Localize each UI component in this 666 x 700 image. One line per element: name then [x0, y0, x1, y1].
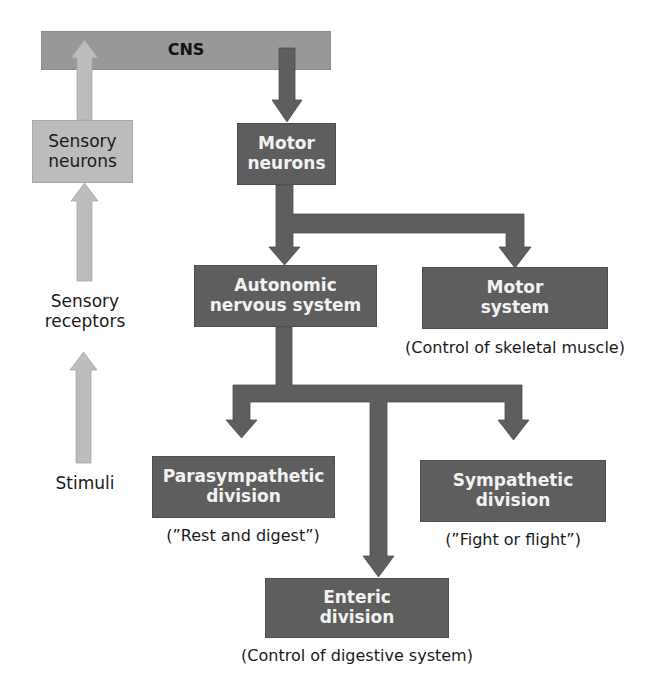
autonomic-line2: nervous system [210, 296, 362, 316]
sensory-neurons-box: Sensory neurons [32, 120, 133, 183]
sensory-receptors-line1: Sensory [30, 291, 140, 311]
parasympathetic-line1: Parasympathetic [163, 467, 325, 487]
motor-neurons-line2: neurons [247, 154, 325, 174]
sensory-neurons-line1: Sensory [48, 132, 117, 152]
stimuli-text: Stimuli [56, 473, 115, 493]
motor-system-box: Motor system [422, 267, 608, 329]
motor-system-caption: (Control of skeletal muscle) [380, 338, 650, 357]
sympathetic-line2: division [453, 491, 573, 511]
parasympathetic-line2: division [163, 487, 325, 507]
motor-neurons-box: Motor neurons [237, 123, 336, 185]
stimuli-label: Stimuli [30, 473, 140, 493]
sensory-receptors-label: Sensory receptors [30, 291, 140, 332]
sympathetic-line1: Sympathetic [453, 471, 573, 491]
enteric-line1: Enteric [320, 588, 395, 608]
arrow-stimuli-to-receptors [70, 352, 97, 463]
parasympathetic-division-box: Parasympathetic division [152, 456, 335, 518]
branch-motor-neurons [269, 185, 531, 268]
autonomic-nervous-system-box: Autonomic nervous system [194, 265, 377, 327]
motor-neurons-line1: Motor [247, 134, 325, 154]
motor-system-line2: system [481, 298, 550, 318]
sympathetic-caption: (”Fight or flight”) [413, 530, 613, 549]
sympathetic-division-box: Sympathetic division [420, 460, 606, 522]
enteric-caption: (Control of digestive system) [207, 646, 507, 665]
motor-system-line1: Motor [481, 278, 550, 298]
autonomic-line1: Autonomic [210, 276, 362, 296]
arrow-cns-to-motor-neurons [272, 48, 302, 122]
enteric-line2: division [320, 608, 395, 628]
enteric-division-box: Enteric division [265, 578, 449, 638]
sensory-receptors-line2: receptors [30, 311, 140, 331]
arrow-sensory-to-cns [71, 40, 98, 120]
sensory-neurons-line2: neurons [48, 152, 117, 172]
arrow-receptors-to-sensory-neurons [71, 183, 98, 281]
parasympathetic-caption: (”Rest and digest”) [143, 526, 343, 545]
